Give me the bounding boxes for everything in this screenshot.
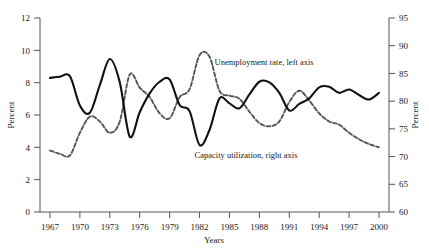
right-tick-label: 65 (399, 179, 409, 189)
x-tick-label: 1970 (71, 222, 90, 232)
x-tick-label: 2000 (370, 222, 389, 232)
left-tick-label: 6 (26, 110, 31, 120)
right-tick-label: 95 (399, 13, 409, 23)
annotation-unemployment-label: Unemployment rate, left axis (215, 57, 314, 67)
x-tick-label: 1991 (280, 222, 298, 232)
right-tick-label: 80 (399, 96, 409, 106)
right-tick-label: 75 (399, 124, 409, 134)
right-tick-label: 70 (399, 152, 409, 162)
annotation-capacity-label: Capacity utilization, right axis (195, 150, 298, 160)
left-tick-label: 0 (26, 207, 31, 217)
x-tick-label: 1982 (191, 222, 209, 232)
left-tick-label: 10 (21, 46, 31, 56)
left-tick-label: 12 (21, 13, 30, 23)
chart-container: 024681012 Percent 6065707580859095 Perce… (0, 0, 429, 250)
right-axis-title: Percent (410, 101, 420, 128)
x-tick-label: 1997 (340, 222, 359, 232)
x-tick-label: 1994 (310, 222, 329, 232)
left-tick-label: 2 (26, 175, 31, 185)
x-tick-label: 1979 (161, 222, 180, 232)
x-tick-label: 1967 (41, 222, 60, 232)
left-tick-label: 4 (26, 143, 31, 153)
left-axis-title: Percent (6, 101, 16, 128)
x-tick-label: 1985 (220, 222, 239, 232)
x-tick-label: 1976 (131, 222, 150, 232)
x-tick-label: 1988 (250, 222, 269, 232)
right-tick-label: 85 (399, 69, 409, 79)
dual-axis-line-chart: 024681012 Percent 6065707580859095 Perce… (0, 0, 429, 250)
right-tick-label: 60 (399, 207, 409, 217)
left-tick-label: 8 (26, 78, 31, 88)
x-axis-title: Years (204, 235, 225, 245)
x-tick-label: 1973 (101, 222, 120, 232)
right-tick-label: 90 (399, 41, 409, 51)
